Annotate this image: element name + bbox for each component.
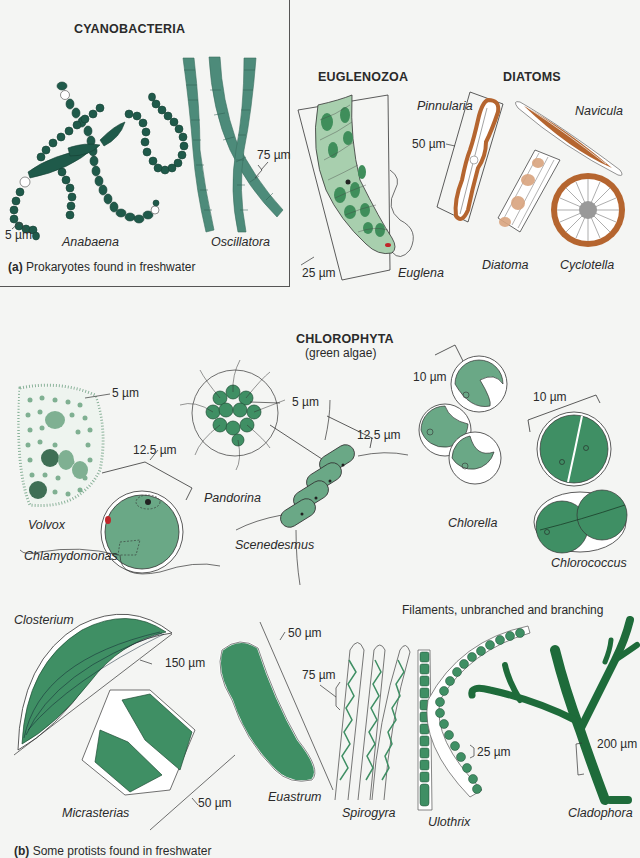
scale-oscillatora: 75 µm — [257, 148, 291, 162]
scale-cladophora: 200 µm — [597, 737, 637, 751]
heading-filaments: Filaments, unbranched and branching — [402, 603, 603, 617]
scale-closterium: 150 µm — [165, 656, 205, 670]
subheading-green-algae: (green algae) — [305, 346, 376, 360]
scale-pandorina: 5 µm — [292, 395, 319, 409]
euastrum-illustration — [220, 622, 333, 790]
scale-spirogyra: 75 µm — [302, 668, 336, 682]
chlorella-illustration — [419, 345, 507, 484]
caption-b: (b) Some protists found in freshwater — [14, 844, 211, 858]
ulothrix-illustration — [418, 626, 530, 810]
label-cladophora: Cladophora — [568, 806, 633, 820]
label-micrasterias: Micrasterias — [62, 806, 129, 820]
scale-anabaena: 5 µm — [5, 228, 32, 242]
scale-micrasterias: 50 µm — [198, 796, 232, 810]
heading-cyanobacteria: CYANOBACTERIA — [74, 22, 185, 36]
heading-euglenozoa: EUGLENOZOA — [318, 70, 408, 84]
scale-chlamydomonas: 12.5 µm — [133, 443, 177, 457]
scale-chlorella: 10 µm — [413, 370, 447, 384]
label-pandorina: Pandorina — [204, 491, 261, 505]
pandorina-illustration — [180, 360, 285, 470]
scale-pinnularia: 50 µm — [412, 137, 446, 151]
label-euastrum: Euastrum — [268, 790, 322, 804]
label-ulothrix: Ulothrix — [428, 815, 470, 829]
label-chlorella: Chlorella — [448, 516, 497, 530]
scale-euglena: 25 µm — [302, 266, 336, 280]
diatoma-illustration — [498, 150, 560, 232]
label-anabaena: Anabaena — [62, 235, 119, 249]
cladophora-illustration — [472, 620, 637, 800]
label-pinnularia: Pinnularia — [417, 99, 473, 113]
label-diatoma: Diatoma — [482, 258, 529, 272]
caption-a: (a) Prokaryotes found in freshwater — [8, 260, 195, 274]
label-chlamydomonas: Chlamydomonas — [24, 549, 118, 563]
label-spirogyra: Spirogyra — [342, 806, 396, 820]
label-navicula: Navicula — [575, 104, 623, 118]
caption-b-letter: (b) — [14, 844, 29, 858]
spirogyra-illustration — [320, 643, 410, 801]
cyclotella-illustration — [551, 173, 625, 247]
label-oscillatora: Oscillatora — [211, 235, 270, 249]
oscillatoria-illustration — [183, 57, 283, 232]
scale-scenedesmus: 12.5 µm — [357, 428, 401, 442]
scale-volvox: 5 µm — [112, 386, 139, 400]
label-closterium: Closterium — [14, 613, 74, 627]
scale-chlorococcus: 10 µm — [533, 390, 567, 404]
heading-chlorophyta: CHLOROPHYTA — [296, 332, 394, 346]
caption-b-text: Some protists found in freshwater — [33, 844, 212, 858]
caption-a-text: Prokaryotes found in freshwater — [26, 260, 195, 274]
label-cyclotella: Cyclotella — [560, 258, 614, 272]
scale-euastrum: 50 µm — [288, 626, 322, 640]
chlorococcus-illustration — [528, 395, 627, 553]
volvox-illustration — [19, 385, 110, 505]
scale-ulothrix: 25 µm — [477, 745, 511, 759]
euglena-illustration — [298, 95, 413, 280]
label-scenedesmus: Scenedesmus — [235, 538, 314, 552]
anabaena-illustration — [10, 82, 188, 240]
label-chlorococcus: Chlorococcus — [551, 556, 627, 570]
label-euglena: Euglena — [398, 266, 444, 280]
caption-a-letter: (a) — [8, 260, 23, 274]
heading-diatoms: DIATOMS — [503, 70, 561, 84]
label-volvox: Volvox — [28, 518, 65, 532]
